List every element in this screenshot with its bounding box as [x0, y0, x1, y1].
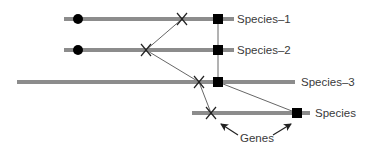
gene-synteny-diagram: Species–1 Species–2 Species–3 Species Ge…: [0, 0, 371, 149]
species-label-4: Species: [315, 107, 356, 119]
arrow-icon: [221, 124, 238, 135]
chromosomes: [17, 19, 310, 113]
square-marker-icon: [213, 77, 223, 87]
square-markers: [213, 14, 302, 118]
connectors: [146, 19, 297, 113]
circle-markers: [73, 14, 83, 55]
cross-markers: [141, 13, 216, 119]
species-label-2: Species–2: [237, 44, 291, 56]
cross-link-3-4: [199, 82, 211, 113]
cross-link-2-3: [146, 50, 199, 82]
species-label-1: Species–1: [237, 13, 291, 25]
arrow-icon: [273, 124, 291, 135]
square-marker-icon: [213, 14, 223, 24]
square-marker-icon: [292, 108, 302, 118]
circle-marker-icon: [73, 45, 83, 55]
square-link-3-4: [218, 82, 297, 113]
species-label-3: Species–3: [301, 76, 355, 88]
genes-annotation-label: Genes: [240, 132, 274, 144]
circle-marker-icon: [73, 14, 83, 24]
square-marker-icon: [213, 45, 223, 55]
cross-link-1-2: [146, 19, 182, 50]
